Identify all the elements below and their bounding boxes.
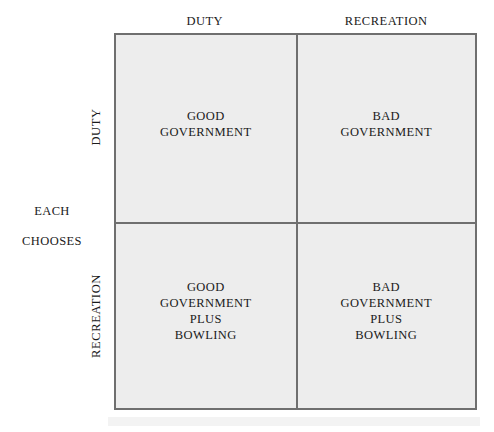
matrix-cell-duty-duty-label: GOOD GOVERNMENT <box>160 108 252 140</box>
matrix-cell-recreation-recreation: BAD GOVERNMENT PLUS BOWLING <box>296 222 476 409</box>
row-header-duty: DUTY <box>82 33 110 222</box>
column-header-duty: DUTY <box>114 10 296 32</box>
row-header-duty-label: DUTY <box>89 109 104 146</box>
matrix-cell-recreation-duty: GOOD GOVERNMENT PLUS BOWLING <box>116 222 296 409</box>
matrix-cell-duty-recreation: BAD GOVERNMENT <box>296 35 476 222</box>
row-headers: DUTY RECREATION <box>82 33 110 410</box>
row-header-recreation-label: RECREATION <box>89 274 104 358</box>
matrix-grid: GOOD GOVERNMENT BAD GOVERNMENT GOOD GOVE… <box>114 33 477 410</box>
matrix-cell-duty-duty: GOOD GOVERNMENT <box>116 35 296 222</box>
column-header-recreation: RECREATION <box>296 10 478 32</box>
diagram-canvas: EACH CHOOSES DUTY RECREATION DUTY RECREA… <box>0 0 494 432</box>
row-header-recreation: RECREATION <box>82 222 110 411</box>
column-headers: DUTY RECREATION <box>114 10 477 32</box>
matrix-cell-recreation-duty-label: GOOD GOVERNMENT PLUS BOWLING <box>160 279 252 343</box>
matrix-cell-recreation-recreation-label: BAD GOVERNMENT PLUS BOWLING <box>341 279 433 343</box>
matrix-cell-duty-recreation-label: BAD GOVERNMENT <box>341 108 433 140</box>
scan-artifact-band <box>108 417 480 426</box>
